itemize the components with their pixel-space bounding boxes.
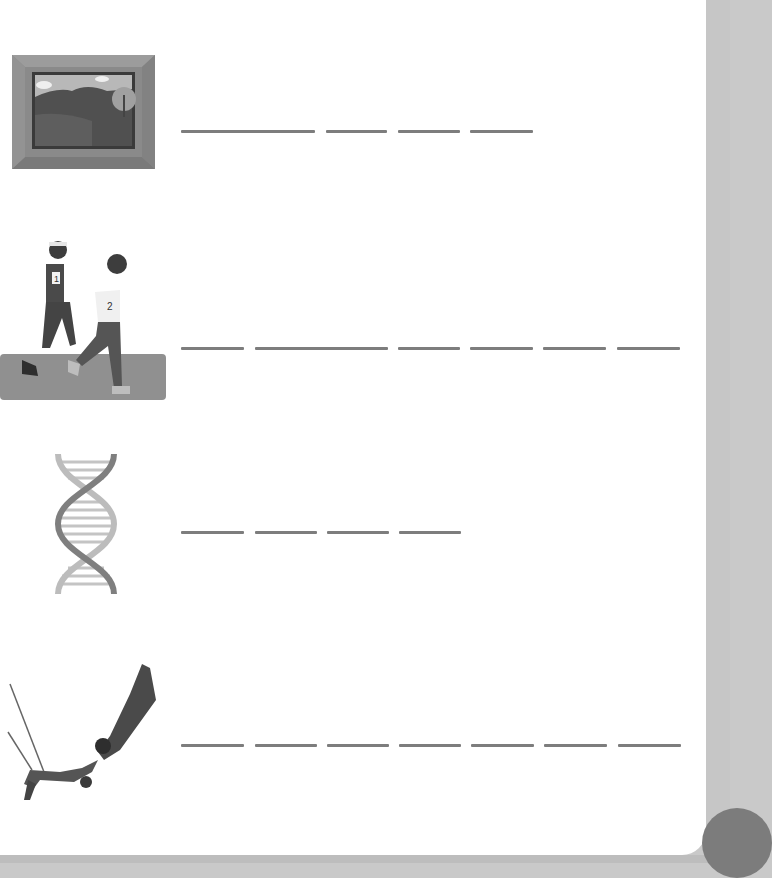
letter-blank[interactable] bbox=[327, 531, 389, 534]
svg-text:1: 1 bbox=[54, 274, 59, 284]
letter-blank[interactable] bbox=[399, 744, 461, 747]
letter-blank[interactable] bbox=[181, 744, 244, 747]
letter-blank[interactable] bbox=[326, 130, 387, 133]
page-edge-tab bbox=[706, 0, 730, 863]
letter-blank[interactable] bbox=[398, 347, 460, 350]
page-bottom-edge bbox=[0, 855, 730, 863]
letter-blank[interactable] bbox=[471, 744, 534, 747]
letter-blank[interactable] bbox=[255, 531, 317, 534]
letter-blank[interactable] bbox=[399, 531, 461, 534]
letter-blank[interactable] bbox=[327, 744, 389, 747]
letter-blank[interactable] bbox=[255, 744, 317, 747]
dna-helix-icon bbox=[54, 454, 118, 594]
letter-blank[interactable] bbox=[181, 531, 244, 534]
letter-blank[interactable] bbox=[544, 744, 607, 747]
letter-blank[interactable] bbox=[398, 130, 460, 133]
letter-blank[interactable] bbox=[543, 347, 606, 350]
letter-blank[interactable] bbox=[181, 347, 244, 350]
trapeze-artists-icon bbox=[0, 660, 160, 805]
letter-blank[interactable] bbox=[618, 744, 681, 747]
runners-icon: 1 2 bbox=[0, 236, 166, 404]
letter-blank[interactable] bbox=[255, 347, 388, 350]
letter-blank[interactable] bbox=[470, 347, 533, 350]
worksheet-page: 1 2 bbox=[0, 0, 706, 855]
letter-blank[interactable] bbox=[181, 130, 315, 133]
letter-blank[interactable] bbox=[470, 130, 533, 133]
page-corner-badge bbox=[702, 808, 772, 878]
svg-text:2: 2 bbox=[107, 301, 113, 312]
painting-frame-icon bbox=[12, 55, 155, 169]
letter-blank[interactable] bbox=[617, 347, 680, 350]
